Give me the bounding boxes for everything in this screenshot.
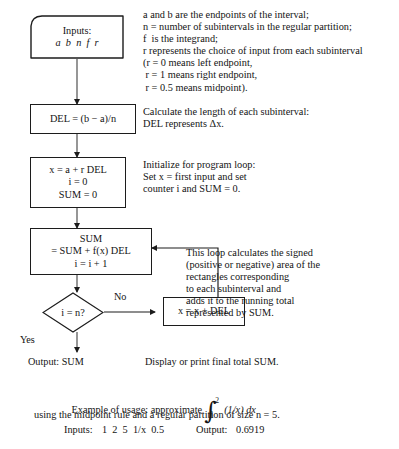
decision-condition: i = n?	[61, 307, 85, 318]
node-output: Output: SUM	[28, 356, 84, 367]
sum-counter: i = i + 1	[75, 258, 108, 270]
example-inputs-values: 1 2 5 1/x 0.5	[102, 424, 164, 435]
legend-line-2: f is the integrand;	[143, 33, 397, 45]
loop-note-line-0: This loop calculates the signed	[186, 247, 396, 259]
node-decision[interactable]: i = n?	[42, 292, 104, 333]
loop-note-block: This loop calculates the signed (positiv…	[186, 247, 396, 320]
sum-title: SUM	[80, 233, 102, 245]
init-note-line-0: Initialize for program loop:	[143, 159, 393, 171]
example-inputs-label: Inputs:	[64, 424, 93, 435]
del-formula: DEL = (b − a)/n	[50, 113, 116, 125]
init-x: x = a + r DEL	[49, 164, 107, 176]
legend-line-1: n = number of subintervals in the regula…	[143, 21, 397, 33]
node-init[interactable]: x = a + r DEL i = 0 SUM = 0	[30, 157, 126, 208]
loop-note-line-3: to each subinterval and	[186, 283, 396, 295]
sum-accumulate: = SUM + f(x) DEL	[51, 245, 131, 257]
node-del[interactable]: DEL = (b − a)/n	[30, 104, 136, 134]
legend-line-0: a and b are the endpoints of the interva…	[143, 9, 397, 21]
init-i: i = 0	[69, 176, 88, 188]
legend-block: a and b are the endpoints of the interva…	[143, 9, 397, 94]
legend-line-4: (r = 0 means left endpoint,	[143, 57, 397, 69]
loop-note-line-4: adds it to the running total	[186, 295, 396, 307]
example-line-2: using the midpoint rule and a regular pa…	[34, 409, 280, 420]
loop-note-line-2: rectangles corresponding	[186, 271, 396, 283]
node-sum[interactable]: SUM = SUM + f(x) DEL i = i + 1	[30, 228, 152, 275]
loop-note-line-1: (positive or negative) area of the	[186, 259, 396, 271]
legend-line-3: r represents the choice of input from ea…	[143, 45, 397, 57]
del-note-line-1: DEL represents Δx.	[143, 118, 393, 130]
loop-note-line-5: represented by SUM.	[186, 307, 396, 319]
del-note-block: Calculate the length of each subinterval…	[143, 106, 393, 130]
legend-line-5: r = 1 means right endpoint,	[143, 69, 397, 81]
output-note: Display or print final total SUM.	[145, 356, 279, 367]
inputs-variables: a b n f r	[56, 37, 99, 49]
example-output-label: Output:	[196, 424, 227, 435]
init-sum: SUM = 0	[59, 189, 97, 201]
init-note-block: Initialize for program loop: Set x = fir…	[143, 159, 393, 195]
edge-label-no: No	[114, 291, 126, 302]
integral-upper-limit: 2	[215, 396, 219, 405]
init-note-line-2: counter i and SUM = 0.	[143, 183, 393, 195]
node-inputs[interactable]: Inputs: a b n f r	[30, 15, 124, 59]
legend-line-6: r = 0.5 means midpoint).	[143, 82, 397, 94]
del-note-line-0: Calculate the length of each subinterval…	[143, 106, 393, 118]
example-output-value: 0.6919	[236, 424, 264, 435]
edge-label-yes: Yes	[20, 334, 35, 345]
inputs-label: Inputs:	[63, 25, 92, 37]
init-note-line-1: Set x = first input and set	[143, 171, 393, 183]
flowchart-page: Inputs: a b n f r DEL = (b − a)/n x = a …	[0, 0, 399, 449]
